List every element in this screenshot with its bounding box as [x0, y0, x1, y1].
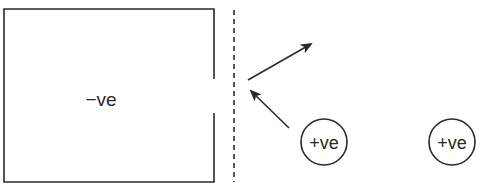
positive-particle-1: +ve: [301, 119, 347, 165]
particle-label: +ve: [437, 133, 467, 153]
positive-particle-2: +ve: [429, 119, 475, 165]
arrow-incoming: [251, 91, 289, 128]
container-label: −ve: [85, 89, 116, 110]
diagram-canvas: −ve +ve +ve: [0, 0, 487, 189]
arrow-outgoing: [248, 44, 311, 80]
particle-label: +ve: [309, 133, 339, 153]
